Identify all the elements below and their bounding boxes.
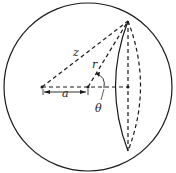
cut-circle-back-arc	[128, 21, 141, 151]
r-line	[88, 21, 128, 87]
label-a: a	[62, 87, 69, 100]
point-chord-center	[127, 86, 130, 89]
label-theta: θ	[95, 102, 102, 115]
theta-angle-arc	[96, 74, 104, 88]
a-arrow-left-icon	[44, 90, 50, 94]
z-line	[42, 21, 128, 87]
point-left	[41, 86, 44, 89]
a-arrow-right-icon	[80, 90, 86, 94]
label-z: z	[72, 46, 79, 59]
theta-leader	[101, 89, 104, 100]
cut-circle-front-arc	[116, 21, 129, 151]
sphere-diagram: z r a θ	[0, 0, 176, 173]
label-r: r	[92, 58, 98, 71]
point-center	[87, 86, 90, 89]
